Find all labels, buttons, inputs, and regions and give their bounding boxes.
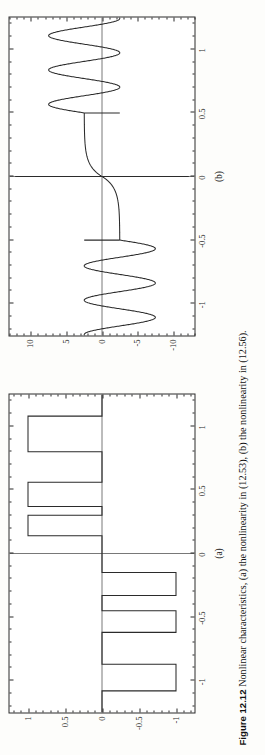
axis-tick xyxy=(124,710,125,712)
axis-tick xyxy=(9,425,13,426)
axis-tick xyxy=(151,333,152,335)
axis-tick xyxy=(192,577,194,578)
axis-tick xyxy=(192,565,194,566)
axis-tick xyxy=(192,86,194,87)
axis-tick xyxy=(180,17,181,19)
axis-tick xyxy=(9,124,11,125)
axis-tick xyxy=(192,188,194,189)
axis-tick xyxy=(158,17,159,19)
axis-tick xyxy=(190,239,194,240)
y-axis-tick-label: 0.5 xyxy=(59,716,69,727)
axis-tick xyxy=(176,708,177,712)
axis-tick xyxy=(168,710,169,712)
axis-tick xyxy=(65,394,66,398)
axis-tick xyxy=(9,239,13,240)
axis-tick xyxy=(9,17,10,19)
axis-tick xyxy=(66,331,67,335)
y-axis-tick-label: 0 xyxy=(96,716,106,720)
panel-b: (b) -1-0.500.51-10-50510 xyxy=(0,8,225,370)
axis-tick xyxy=(146,394,147,396)
axis-tick xyxy=(52,17,53,19)
axis-tick xyxy=(192,22,194,23)
axis-tick xyxy=(9,666,11,667)
axis-tick xyxy=(192,315,194,316)
axis-tick xyxy=(87,710,88,712)
axis-tick xyxy=(9,99,11,100)
staircase-path xyxy=(28,394,176,712)
axis-tick xyxy=(173,17,174,21)
axis-tick xyxy=(23,333,24,335)
axis-tick xyxy=(9,552,13,553)
axis-tick xyxy=(192,226,194,227)
axis-tick xyxy=(9,328,11,329)
axis-tick xyxy=(190,394,191,396)
axis-tick xyxy=(190,48,194,49)
axis-tick xyxy=(73,333,74,335)
axis-tick xyxy=(9,48,13,49)
axis-tick xyxy=(192,200,194,201)
axis-tick xyxy=(192,654,194,655)
staircase-nonlinearity-curve xyxy=(9,394,194,712)
axis-tick xyxy=(9,488,13,489)
axis-tick xyxy=(192,124,194,125)
axis-tick xyxy=(161,394,162,396)
axis-tick xyxy=(9,315,11,316)
axis-tick xyxy=(153,394,154,396)
axis-tick xyxy=(9,150,11,151)
axis-tick xyxy=(192,289,194,290)
axis-tick xyxy=(9,616,13,617)
positive-oscillation-branch xyxy=(48,17,119,112)
axis-tick xyxy=(192,277,194,278)
figure-caption: Figure 12.12 Nonlinear characteristics, … xyxy=(236,6,248,745)
axis-tick xyxy=(9,514,11,515)
axis-tick xyxy=(109,710,110,712)
axis-tick xyxy=(16,333,17,335)
axis-tick xyxy=(183,394,184,396)
x-axis-tick-label: 0.5 xyxy=(196,485,206,496)
axis-tick xyxy=(65,708,66,712)
axis-tick xyxy=(87,394,88,396)
axis-tick xyxy=(146,710,147,712)
axis-tick xyxy=(116,394,117,396)
axis-tick xyxy=(130,333,131,335)
axis-tick xyxy=(9,22,11,23)
axis-tick xyxy=(9,527,11,528)
axis-tick xyxy=(192,450,194,451)
axis-tick xyxy=(45,333,46,335)
axis-tick xyxy=(9,226,11,227)
axis-tick xyxy=(192,603,194,604)
axis-tick xyxy=(130,17,131,19)
axis-tick xyxy=(190,111,194,112)
figure-inner: (a) -1-0.500.51-1-0.500.51 (b) -1-0.500.… xyxy=(0,0,265,755)
axis-tick xyxy=(9,86,11,87)
axis-tick xyxy=(192,501,194,502)
axis-tick xyxy=(37,17,38,19)
axis-tick xyxy=(116,333,117,335)
axis-tick xyxy=(52,333,53,335)
axis-tick xyxy=(9,73,11,74)
axis-tick xyxy=(9,137,11,138)
axis-tick xyxy=(131,710,132,712)
axis-tick xyxy=(123,17,124,19)
axis-tick xyxy=(9,476,11,477)
axis-tick xyxy=(9,200,11,201)
axis-tick xyxy=(73,17,74,19)
y-axis-tick-label: -1 xyxy=(170,716,180,723)
axis-tick xyxy=(192,666,194,667)
axis-tick xyxy=(116,17,117,19)
axis-tick xyxy=(57,394,58,396)
axis-tick xyxy=(102,331,103,335)
axis-tick xyxy=(124,394,125,396)
axis-tick xyxy=(190,616,194,617)
axis-tick xyxy=(9,251,11,252)
axis-tick xyxy=(192,150,194,151)
axis-tick xyxy=(94,17,95,19)
axis-tick xyxy=(87,333,88,335)
figure-page: (a) -1-0.500.51-1-0.500.51 (b) -1-0.500.… xyxy=(0,0,265,755)
axis-tick xyxy=(192,264,194,265)
axis-tick xyxy=(139,708,140,712)
y-axis-tick-label: 0 xyxy=(96,339,106,343)
axis-tick xyxy=(192,590,194,591)
axis-tick xyxy=(9,111,13,112)
axis-tick xyxy=(192,251,194,252)
